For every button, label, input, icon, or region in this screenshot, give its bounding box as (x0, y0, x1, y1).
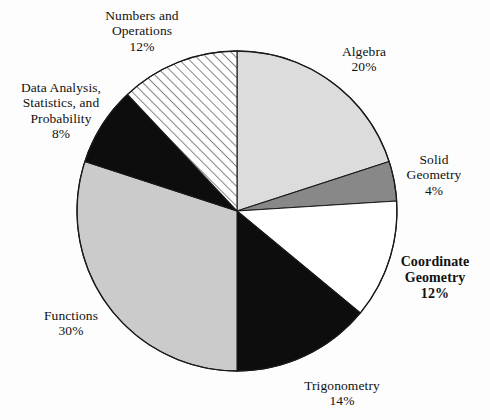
slice-label-text: Algebra (318, 44, 410, 59)
slice-label-numbers-operations: Numbers and Operations 12% (78, 8, 206, 54)
slice-label-percent: 12% (382, 286, 488, 302)
pie-slice-group (77, 51, 397, 371)
slice-label-algebra: Algebra 20% (318, 44, 410, 75)
slice-label-functions: Functions 30% (20, 308, 122, 339)
slice-label-text: Solid (386, 152, 482, 167)
slice-label-text: Operations (78, 23, 206, 38)
slice-label-trigonometry: Trigonometry 14% (284, 378, 400, 409)
pie-chart-figure: Numbers and Operations 12% Algebra 20% S… (0, 0, 490, 420)
slice-label-percent: 12% (78, 39, 206, 54)
slice-label-text: Geometry (382, 270, 488, 286)
slice-label-text: Probability (2, 111, 120, 126)
slice-label-percent: 20% (318, 59, 410, 74)
slice-label-text: Coordinate (382, 254, 488, 270)
slice-label-solid-geometry: Solid Geometry 4% (386, 152, 482, 198)
slice-label-text: Trigonometry (284, 378, 400, 393)
slice-label-text: Functions (20, 308, 122, 323)
slice-label-coordinate-geometry: Coordinate Geometry 12% (382, 254, 488, 301)
slice-label-text: Statistics, and (2, 95, 120, 110)
slice-label-percent: 4% (386, 183, 482, 198)
pie-chart-svg (0, 0, 490, 420)
slice-label-text: Geometry (386, 167, 482, 182)
slice-label-percent: 8% (2, 126, 120, 141)
slice-label-percent: 30% (20, 323, 122, 338)
slice-label-data-analysis: Data Analysis, Statistics, and Probabili… (2, 80, 120, 141)
slice-label-percent: 14% (284, 393, 400, 408)
slice-label-text: Numbers and (78, 8, 206, 23)
slice-label-text: Data Analysis, (2, 80, 120, 95)
